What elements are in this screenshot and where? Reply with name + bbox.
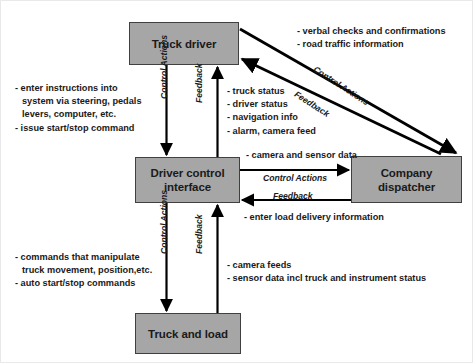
node-truck-and-load-label: Truck and load bbox=[148, 327, 228, 341]
note-enter-instructions-line-4: - issue start/stop command bbox=[15, 122, 142, 135]
note-enter-instructions-line-2: system via steering, pedals bbox=[15, 95, 142, 108]
node-driver-control-interface-label-line1: Driver control bbox=[150, 166, 224, 180]
note-enter-instructions-line-1: - enter instructions into bbox=[15, 82, 142, 95]
note-camera-feeds-line-2: - sensor data incl truck and instrument … bbox=[227, 272, 426, 285]
note-verbal-checks-line-1: - verbal checks and confirmations bbox=[297, 25, 446, 38]
node-company-dispatcher[interactable]: Company dispatcher bbox=[351, 156, 462, 203]
note-enter-instructions: - enter instructions into system via ste… bbox=[15, 82, 142, 135]
arrow-label-control-actions-interface-to-dispatcher: Control Actions bbox=[263, 173, 327, 183]
arrow-label-feedback-interface-to-driver: Feedback bbox=[194, 63, 204, 103]
note-enter-load-delivery-information-line: - enter load delivery information bbox=[244, 211, 384, 224]
note-commands-manipulate-line-1: - commands that manipulate bbox=[15, 251, 152, 264]
arrow-label-feedback-truck-to-interface: Feedback bbox=[194, 214, 204, 254]
diagram-canvas: Truck driver Driver control interface Co… bbox=[0, 0, 473, 363]
note-enter-load-delivery-information: - enter load delivery information bbox=[244, 211, 384, 224]
arrow-label-control-actions-driver-to-interface: Control Actions bbox=[159, 35, 169, 99]
node-truck-driver[interactable]: Truck driver bbox=[129, 22, 239, 65]
note-camera-and-sensor-data: - camera and sensor data bbox=[246, 149, 357, 162]
note-truck-status-line-3: - navigation info bbox=[227, 111, 316, 124]
arrow-label-control-actions-interface-to-truck: Control Actions bbox=[159, 190, 169, 254]
note-camera-feeds-line-1: - camera feeds bbox=[227, 259, 426, 272]
note-verbal-checks-line-2: - road traffic information bbox=[297, 38, 446, 51]
note-camera-feeds: - camera feeds - sensor data incl truck … bbox=[227, 259, 426, 285]
node-company-dispatcher-label-line2: dispatcher bbox=[378, 180, 435, 194]
note-verbal-checks: - verbal checks and confirmations - road… bbox=[297, 25, 446, 51]
node-driver-control-interface-label-line2: interface bbox=[164, 180, 211, 194]
arrow-label-feedback-dispatcher-to-interface: Feedback bbox=[273, 191, 313, 201]
note-commands-manipulate-line-2: truck movement, position,etc. bbox=[15, 264, 152, 277]
note-enter-instructions-line-3: levers, computer, etc. bbox=[15, 108, 142, 121]
note-commands-manipulate-line-3: - auto start/stop commands bbox=[15, 277, 152, 290]
note-truck-status-line-4: - alarm, camera feed bbox=[227, 125, 316, 138]
node-company-dispatcher-label-line1: Company bbox=[381, 166, 433, 180]
node-truck-and-load[interactable]: Truck and load bbox=[135, 313, 241, 354]
node-driver-control-interface[interactable]: Driver control interface bbox=[135, 157, 240, 203]
note-commands-manipulate: - commands that manipulate truck movemen… bbox=[15, 251, 152, 291]
note-camera-and-sensor-data-line: - camera and sensor data bbox=[246, 149, 357, 162]
